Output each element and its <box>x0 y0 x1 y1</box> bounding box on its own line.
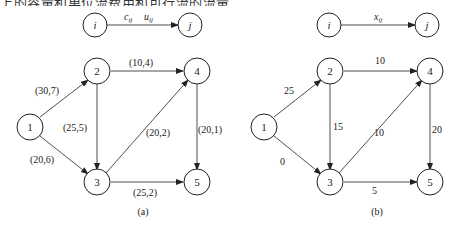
node-4: 4 <box>417 58 443 84</box>
edge-label-3-5: (25,2) <box>133 187 157 199</box>
node-1: 1 <box>251 114 277 140</box>
svg-text:2: 2 <box>327 65 333 77</box>
edge-label-3-4: 10 <box>374 127 384 138</box>
legend-a-node-i-label: i <box>93 19 96 31</box>
edge-1-3 <box>274 136 321 174</box>
svg-text:3: 3 <box>327 176 333 188</box>
svg-text:1: 1 <box>27 121 33 133</box>
edge-label-4-5: (20,1) <box>198 124 222 136</box>
edge-label-3-4: (20,2) <box>146 127 170 139</box>
edge-label-1-2: 25 <box>284 85 294 96</box>
graph-b: 25 0 15 10 10 5 20 1 2 3 4 5 (b) <box>251 55 443 218</box>
edge-label-3-5: 5 <box>372 185 377 196</box>
svg-text:5: 5 <box>427 176 433 188</box>
svg-text:4: 4 <box>427 65 433 77</box>
legend-b-node-j-label: j <box>423 19 428 31</box>
edge-label-1-3: (20,6) <box>30 154 54 166</box>
legend-b-node-i-label: i <box>327 19 330 31</box>
node-5: 5 <box>184 169 210 195</box>
svg-text:4: 4 <box>194 65 200 77</box>
edge-label-4-5: 20 <box>432 124 442 135</box>
graph-a: (30,7) (20,6) (25,5) (10,4) (20,2) (25,2… <box>17 57 222 218</box>
edge-label-1-3: 0 <box>280 156 285 167</box>
node-5: 5 <box>417 169 443 195</box>
edge-label-2-3: (25,5) <box>63 122 87 134</box>
svg-text:1: 1 <box>261 121 267 133</box>
legend-a-node-j-label: j <box>186 19 191 31</box>
svg-text:2: 2 <box>94 65 100 77</box>
caption-b: (b) <box>371 206 383 218</box>
svg-text:5: 5 <box>194 176 200 188</box>
edge-label-2-4: (10,4) <box>129 57 153 69</box>
node-3: 3 <box>84 169 110 195</box>
legend-a-cost: cij <box>124 11 132 24</box>
node-1: 1 <box>17 114 43 140</box>
node-2: 2 <box>84 58 110 84</box>
node-4: 4 <box>184 58 210 84</box>
edge-label-1-2: (30,7) <box>35 85 59 97</box>
legend-b: i j xij <box>317 11 439 37</box>
edge-label-2-4: 10 <box>375 55 385 66</box>
legend-a: i j cij uij <box>83 11 202 37</box>
node-3: 3 <box>317 169 343 195</box>
legend-b-flow: xij <box>373 11 382 24</box>
edge-1-2 <box>274 80 321 117</box>
legend-a-capacity: uij <box>144 11 153 24</box>
svg-text:3: 3 <box>94 176 100 188</box>
network-flow-diagram: i j cij uij i j xij (30,7) (20,6) (25,5)… <box>0 0 458 234</box>
node-2: 2 <box>317 58 343 84</box>
edge-label-2-3: 15 <box>333 121 343 132</box>
caption-a: (a) <box>137 206 148 218</box>
